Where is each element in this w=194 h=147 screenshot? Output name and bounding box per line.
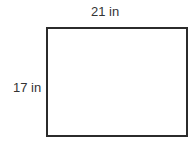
rectangle-shape <box>46 27 188 137</box>
width-label: 21 in <box>91 4 119 19</box>
height-label: 17 in <box>13 80 41 95</box>
